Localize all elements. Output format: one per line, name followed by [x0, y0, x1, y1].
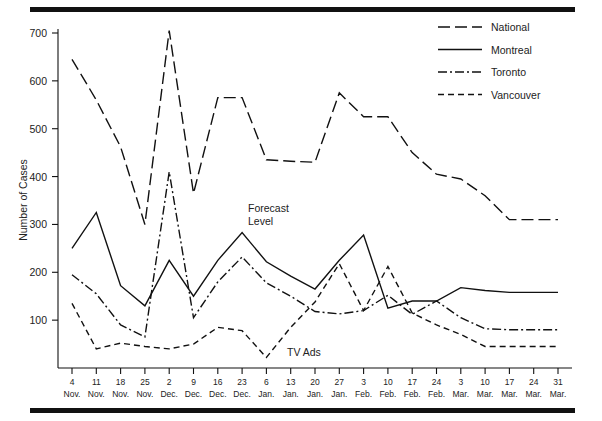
x-tick-label-month: Dec. — [209, 389, 226, 399]
x-tick-label-day: 17 — [505, 377, 515, 387]
x-tick-label-month: Mar. — [477, 389, 494, 399]
x-tick-label-day: 27 — [335, 377, 345, 387]
legend-label-montreal: Montreal — [491, 44, 532, 56]
x-tick-label-day: 3 — [361, 377, 366, 387]
x-tick-label-month: Nov. — [112, 389, 129, 399]
line-chart-plot: 100200300400500600700 4Nov.11Nov.18Nov.2… — [0, 0, 602, 421]
x-tick-label-day: 31 — [553, 377, 563, 387]
series-line-vancouver — [72, 264, 558, 358]
x-tick-label-month: Jan. — [258, 389, 274, 399]
y-tick-label: 600 — [29, 75, 47, 87]
x-tick-label-day: 18 — [116, 377, 126, 387]
x-tick-label-day: 16 — [213, 377, 223, 387]
x-tick-label-month: Jan. — [307, 389, 323, 399]
x-tick-label-month: Nov. — [136, 389, 153, 399]
x-tick-label-month: Mar. — [453, 389, 470, 399]
chart-figure: 100200300400500600700 4Nov.11Nov.18Nov.2… — [0, 0, 602, 421]
x-tick-label-day: 4 — [70, 377, 75, 387]
legend-label-toronto: Toronto — [491, 66, 526, 78]
x-tick-label-month: Jan. — [331, 389, 347, 399]
x-tick-label-month: Nov. — [64, 389, 81, 399]
x-tick-label-month: Mar. — [550, 389, 567, 399]
series-group — [72, 31, 558, 358]
y-tick-label: 700 — [29, 27, 47, 39]
x-tick-label-day: 11 — [92, 377, 101, 387]
x-tick-label-month: Feb. — [379, 389, 396, 399]
legend-group: NationalMontrealTorontoVancouver — [438, 21, 541, 101]
x-tick-label-day: 24 — [432, 377, 442, 387]
x-tick-label-month: Feb. — [404, 389, 421, 399]
x-tick-label-month: Dec. — [185, 389, 202, 399]
x-tick-label-month: Mar. — [501, 389, 518, 399]
y-axis-title: Number of Cases — [17, 159, 29, 241]
x-tick-label-month: Dec. — [160, 389, 177, 399]
annotation-tv-ads: TV Ads — [287, 346, 321, 358]
y-tick-label: 200 — [29, 266, 47, 278]
x-tick-label-day: 23 — [237, 377, 247, 387]
x-tick-label-day: 2 — [167, 377, 172, 387]
x-tick-label-month: Nov. — [88, 389, 105, 399]
legend-label-national: National — [491, 21, 530, 33]
x-tick-label-day: 17 — [407, 377, 417, 387]
x-tick-label-day: 25 — [140, 377, 150, 387]
x-tick-label-month: Jan. — [283, 389, 299, 399]
series-line-montreal — [72, 212, 558, 308]
x-tick-group: 4Nov.11Nov.18Nov.25Nov.2Dec.9Dec.16Dec.2… — [64, 368, 567, 399]
series-line-national — [72, 31, 558, 225]
x-tick-label-month: Feb. — [355, 389, 372, 399]
x-tick-label-day: 20 — [310, 377, 320, 387]
y-tick-label: 100 — [29, 314, 47, 326]
x-tick-label-day: 13 — [286, 377, 296, 387]
x-tick-label-month: Dec. — [233, 389, 250, 399]
legend-label-vancouver: Vancouver — [491, 89, 541, 101]
y-tick-label: 300 — [29, 218, 47, 230]
x-tick-label-month: Feb. — [428, 389, 445, 399]
y-tick-label: 400 — [29, 171, 47, 183]
annotation-group: ForecastLevelTV Ads — [248, 202, 321, 358]
y-tick-label: 500 — [29, 123, 47, 135]
x-tick-label-day: 24 — [529, 377, 539, 387]
x-tick-label-day: 6 — [264, 377, 269, 387]
x-tick-label-day: 3 — [458, 377, 463, 387]
x-tick-label-month: Mar. — [525, 389, 542, 399]
axis-group — [58, 29, 572, 368]
x-tick-label-day: 10 — [480, 377, 490, 387]
x-tick-label-day: 10 — [383, 377, 393, 387]
y-tick-group: 100200300400500600700 — [29, 27, 58, 326]
x-tick-label-day: 9 — [191, 377, 196, 387]
annotation-forecast-level: ForecastLevel — [248, 202, 289, 227]
